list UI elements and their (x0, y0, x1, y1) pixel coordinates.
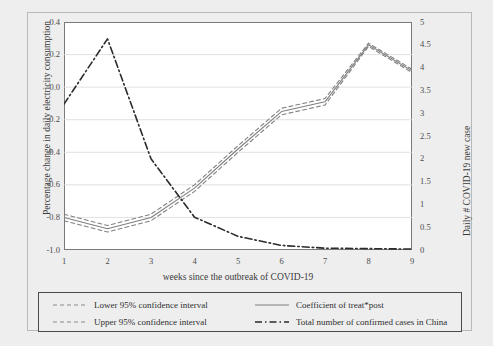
x-tick-label: 3 (141, 256, 161, 266)
legend-label: Total number of confirmed cases in China (296, 317, 447, 327)
x-tick-label: 6 (272, 256, 292, 266)
y-tick-label-right: 1.5 (420, 176, 431, 186)
y-tick-label-left: -0.6 (36, 179, 60, 189)
legend-item-lower-ci: Lower 95% confidence interval (53, 300, 208, 310)
y-tick-label-right: 4 (420, 62, 424, 72)
y-tick-label-left: -0.8 (36, 212, 60, 222)
legend-item-total-cases: Total number of confirmed cases in China (255, 317, 447, 327)
legend-label: Coefficient of treat*post (296, 300, 384, 310)
y-tick-label-right: 1 (420, 199, 424, 209)
x-tick-label: 1 (54, 256, 74, 266)
series-line (64, 45, 412, 229)
y-tick-label-left: 0.2 (36, 49, 60, 59)
legend-box: Lower 95% confidence interval Coefficien… (38, 292, 462, 332)
plot-region (64, 22, 412, 250)
legend-swatch-solid (255, 300, 289, 310)
x-axis-title: weeks since the outbreak of COVID-19 (64, 272, 412, 282)
y-tick-label-left: -1.0 (36, 245, 60, 255)
y-tick-label-left: 0.4 (36, 17, 60, 27)
legend-item-coefficient: Coefficient of treat*post (255, 300, 384, 310)
x-tick-label: 8 (359, 256, 379, 266)
y-tick-label-left: 0.0 (36, 82, 60, 92)
y-axis-right-title: Daily # COVID-19 new case (462, 46, 476, 236)
figure-canvas: Percentage change in daily electricity c… (0, 0, 493, 346)
y-tick-label-right: 2.5 (420, 131, 431, 141)
y-tick-label-right: 3 (420, 108, 424, 118)
y-tick-label-right: 0 (420, 245, 424, 255)
legend-label: Lower 95% confidence interval (94, 300, 208, 310)
series-line (64, 46, 412, 232)
x-tick-label: 9 (402, 256, 422, 266)
y-tick-label-right: 3.5 (420, 85, 431, 95)
x-tick-label: 4 (185, 256, 205, 266)
legend-swatch-dashed (53, 300, 87, 310)
legend-label: Upper 95% confidence interval (94, 317, 207, 327)
data-series-layer (64, 22, 412, 250)
y-tick-label-right: 5 (420, 17, 424, 27)
series-line (64, 39, 412, 249)
y-tick-label-right: 0.5 (420, 222, 431, 232)
legend-swatch-dashed (53, 317, 87, 327)
y-tick-label-right: 2 (420, 153, 424, 163)
y-tick-label-left: -0.4 (36, 147, 60, 157)
y-tick-label-right: 4.5 (420, 39, 431, 49)
series-line (64, 43, 412, 225)
y-tick-label-left: -0.2 (36, 114, 60, 124)
legend-swatch-dash-dot (255, 317, 289, 327)
legend-item-upper-ci: Upper 95% confidence interval (53, 317, 207, 327)
x-tick-label: 7 (315, 256, 335, 266)
x-tick-label: 2 (98, 256, 118, 266)
x-tick-label: 5 (228, 256, 248, 266)
